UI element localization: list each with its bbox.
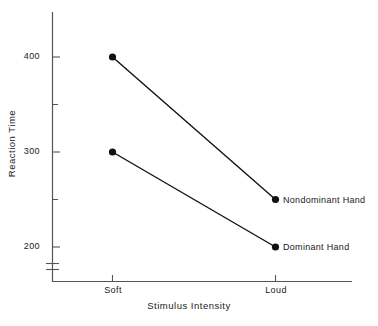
x-tick-label-soft: Soft [93,285,133,295]
series-label-dominant: Dominant Hand [283,242,349,252]
y-tick-label-400: 400 [14,51,40,61]
y-tick-label-200: 200 [14,241,40,251]
x-axis-title: Stimulus Intensity [0,300,378,311]
series-line-nondominant [113,57,276,200]
chart-plot-area [0,0,378,326]
reaction-time-line-chart: 400 300 200 Soft Loud Nondominant Hand D… [0,0,378,326]
y-axis-title: Reaction Time [6,99,17,189]
data-point-nondominant-soft [109,53,116,60]
x-tick-label-loud: Loud [256,285,296,295]
series-line-dominant [113,152,276,247]
data-point-nondominant-loud [272,196,279,203]
series-label-nondominant: Nondominant Hand [283,195,365,205]
data-point-dominant-soft [109,148,116,155]
y-tick-label-300: 300 [14,146,40,156]
data-point-dominant-loud [272,243,279,250]
